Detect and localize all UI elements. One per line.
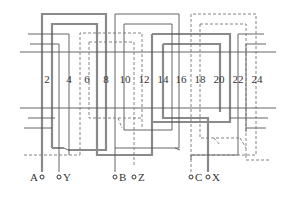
terminal-x-label: X xyxy=(212,171,220,183)
slot-label-22: 22 xyxy=(233,73,244,85)
slot-label-16: 16 xyxy=(176,73,188,85)
terminals: A Y B Z C X xyxy=(30,171,220,183)
terminal-x-circle xyxy=(206,175,210,179)
phase-c-coils xyxy=(97,34,230,172)
slot-label-14: 14 xyxy=(158,73,170,85)
terminal-a-label: A xyxy=(30,171,38,183)
terminal-y-circle xyxy=(57,175,61,179)
terminal-c-label: C xyxy=(195,171,202,183)
terminal-z-label: Z xyxy=(138,171,145,183)
slot-label-6: 6 xyxy=(84,73,90,85)
slot-label-18: 18 xyxy=(195,73,207,85)
slot-label-12: 12 xyxy=(139,73,150,85)
terminal-a-circle xyxy=(40,175,44,179)
slot-label-2: 2 xyxy=(44,73,50,85)
terminal-y-label: Y xyxy=(63,171,71,183)
terminal-c-circle xyxy=(189,175,193,179)
terminal-b-circle xyxy=(113,175,117,179)
slot-label-20: 20 xyxy=(214,73,226,85)
slot-label-4: 4 xyxy=(66,73,72,85)
slot-label-24: 24 xyxy=(252,73,264,85)
terminal-b-label: B xyxy=(119,171,126,183)
slot-label-10: 10 xyxy=(120,73,132,85)
terminal-z-circle xyxy=(132,175,136,179)
winding-diagram: 2 4 6 8 10 12 14 16 18 20 22 24 A Y B Z … xyxy=(0,0,294,199)
slot-label-8: 8 xyxy=(103,73,109,85)
